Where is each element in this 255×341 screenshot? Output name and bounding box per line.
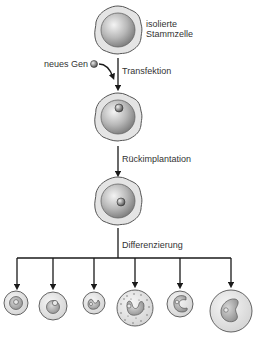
label-reimplantation: Rückimplantation bbox=[122, 154, 191, 164]
nucleus bbox=[101, 13, 135, 47]
diagram-canvas bbox=[0, 0, 255, 341]
stem-cell-reimplanted bbox=[95, 177, 142, 225]
differentiation-tree bbox=[17, 228, 231, 287]
differentiated-cell-5 bbox=[167, 291, 193, 317]
differentiated-cell-1 bbox=[4, 291, 28, 315]
label-isolated-line2: Stammzelle bbox=[146, 29, 193, 39]
gene-icon bbox=[115, 104, 123, 112]
label-new-gene: neues Gen bbox=[44, 59, 88, 69]
label-differentiation: Differenzierung bbox=[122, 240, 183, 250]
differentiated-cell-6 bbox=[210, 290, 252, 332]
stem-cell-transfected bbox=[95, 93, 142, 141]
label-isolated-line1: isolierte bbox=[146, 19, 177, 29]
differentiated-cell-3 bbox=[83, 292, 105, 314]
label-transfection: Transfektion bbox=[122, 66, 171, 76]
gene-insert-arrow bbox=[99, 64, 113, 77]
stem-cell-isolated bbox=[95, 6, 142, 54]
differentiated-cell-4 bbox=[117, 290, 153, 326]
stem-cell-gene-therapy-diagram: isolierte Stammzelle neues Gen Transfekt… bbox=[0, 0, 255, 341]
gene-icon bbox=[91, 61, 98, 68]
gene-icon bbox=[117, 198, 125, 206]
differentiated-cell-2 bbox=[39, 292, 67, 320]
